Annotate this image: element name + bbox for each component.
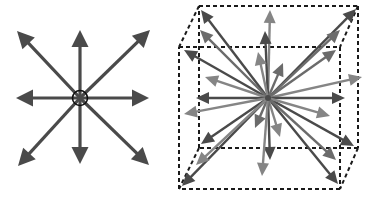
cube-edge [179, 6, 199, 47]
arrowhead [316, 107, 330, 119]
cube-arrow-11 [268, 30, 340, 98]
cube-arrow-25 [196, 98, 268, 165]
arrowhead [201, 10, 214, 24]
arrowhead [201, 132, 215, 144]
arrowhead [332, 92, 345, 104]
arrowhead [264, 10, 276, 23]
cube-center-point [265, 95, 271, 101]
arrowhead [257, 163, 269, 176]
arrowhead [205, 75, 219, 86]
cube-arrow-6 [268, 98, 338, 184]
arrowhead [348, 74, 362, 86]
arrowhead [270, 123, 281, 137]
arrowhead [264, 147, 276, 160]
arrowhead [322, 50, 336, 62]
cubic-star-panel [0, 0, 375, 202]
arrowhead [184, 106, 198, 118]
arrowhead [196, 92, 209, 104]
diagram [0, 0, 375, 202]
cube-edge [340, 148, 358, 189]
